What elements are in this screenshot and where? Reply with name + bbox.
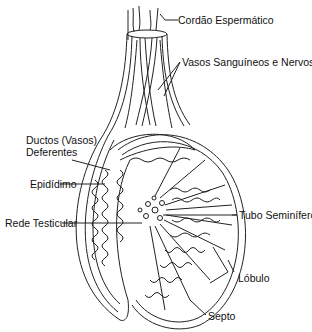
label-rete-testis: Rede Testicular: [5, 217, 77, 229]
label-septum: Septo: [208, 310, 235, 322]
testis-anatomy-diagram: Cordão Espermático Vasos Sanguíneos e Ne…: [0, 0, 312, 332]
label-lobule: Lóbulo: [238, 272, 270, 284]
label-spermatic-cord: Cordão Espermático: [178, 14, 274, 26]
label-vas-deferens-line2: Deferentes: [26, 146, 77, 158]
label-seminiferous-tubule: Tubo Seminífero: [239, 209, 312, 221]
label-blood-vessels-nerves: Vasos Sanguíneos e Nervos: [182, 56, 312, 68]
label-epididymis: Epidídimo: [30, 178, 77, 190]
label-vas-deferens-line1: Ductos (Vasos): [26, 134, 97, 146]
